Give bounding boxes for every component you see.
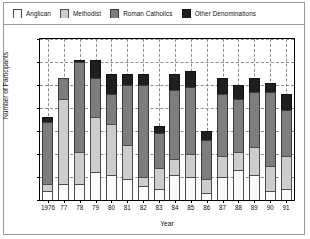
x-tick-label: 91 (283, 204, 290, 211)
bar-segment-anglican (106, 175, 117, 200)
bar-segment-methodist (90, 117, 101, 172)
y-tick-mark (37, 62, 40, 63)
x-tick-mark (111, 200, 112, 203)
y-tick-mark (37, 154, 40, 155)
bar-1976[interactable] (42, 117, 53, 200)
x-tick-mark (127, 200, 128, 203)
bar-84[interactable] (169, 74, 180, 200)
x-tick-mark (270, 200, 271, 203)
bar-83[interactable] (154, 126, 165, 200)
bar-segment-methodist (154, 168, 165, 189)
legend-item-label: Methodist (73, 10, 101, 17)
bar-segment-anglican (169, 175, 180, 200)
bar-82[interactable] (138, 74, 149, 200)
bar-segment-roman-catholics (122, 85, 133, 145)
bar-segment-anglican (138, 186, 149, 200)
bar-segment-roman-catholics (42, 122, 53, 184)
legend-swatch-icon (13, 9, 22, 18)
y-tick-mark (37, 200, 40, 201)
bar-90[interactable] (265, 83, 276, 200)
x-tick-label: 77 (60, 204, 67, 211)
bar-segment-methodist (233, 152, 244, 170)
bar-segment-other-denominations (90, 60, 101, 78)
x-tick-label: 87 (219, 204, 226, 211)
bar-segment-other-denominations (249, 78, 260, 92)
bar-segment-roman-catholics (58, 78, 69, 99)
legend-item-roman-catholics[interactable]: Roman Catholics (110, 9, 172, 18)
legend-item-label: Roman Catholics (123, 10, 172, 17)
legend-item-label: Anglican (26, 10, 51, 17)
legend-item-other-denominations[interactable]: Other Denominations (182, 9, 256, 18)
bar-segment-anglican (233, 170, 244, 200)
bar-segment-roman-catholics (154, 133, 165, 168)
bar-segment-roman-catholics (201, 140, 212, 179)
bar-segment-methodist (185, 154, 196, 177)
bar-segment-methodist (58, 99, 69, 184)
bar-segment-anglican (154, 189, 165, 201)
bar-86[interactable] (201, 131, 212, 200)
bar-segment-methodist (201, 179, 212, 193)
bar-88[interactable] (233, 85, 244, 200)
x-tick-label: 89 (251, 204, 258, 211)
x-tick-label: 84 (171, 204, 178, 211)
bar-segment-methodist (42, 184, 53, 191)
legend-item-methodist[interactable]: Methodist (60, 9, 101, 18)
bar-segment-methodist (217, 156, 228, 177)
bar-segment-methodist (281, 156, 292, 188)
bar-segment-anglican (265, 191, 276, 200)
x-tick-mark (96, 200, 97, 203)
bar-91[interactable] (281, 94, 292, 200)
bar-78[interactable] (74, 60, 85, 200)
bar-segment-other-denominations (201, 131, 212, 140)
chart-legend: AnglicanMethodistRoman CatholicsOther De… (4, 3, 304, 25)
bar-segment-methodist (106, 124, 117, 175)
bar-79[interactable] (90, 60, 101, 200)
bar-segment-other-denominations (217, 78, 228, 94)
bar-segment-anglican (217, 177, 228, 200)
bar-81[interactable] (122, 74, 133, 200)
bar-segment-other-denominations (233, 85, 244, 99)
bar-segment-anglican (90, 172, 101, 200)
legend-swatch-icon (182, 9, 191, 18)
x-tick-mark (207, 200, 208, 203)
x-tick-mark (238, 200, 239, 203)
bar-85[interactable] (185, 71, 196, 200)
x-tick-label: 80 (108, 204, 115, 211)
bar-80[interactable] (106, 74, 117, 200)
x-tick-label: 1976 (41, 204, 55, 211)
bar-segment-anglican (122, 179, 133, 200)
bar-87[interactable] (217, 78, 228, 200)
x-tick-mark (286, 200, 287, 203)
bar-77[interactable] (58, 78, 69, 200)
bar-segment-anglican (201, 193, 212, 200)
gridline-horizontal (40, 39, 294, 40)
y-tick-mark (37, 85, 40, 86)
x-tick-mark (223, 200, 224, 203)
x-tick-label: 85 (187, 204, 194, 211)
legend-swatch-icon (110, 9, 119, 18)
x-tick-mark (48, 200, 49, 203)
bar-segment-roman-catholics (217, 94, 228, 156)
bar-segment-methodist (265, 166, 276, 191)
y-tick-mark (37, 131, 40, 132)
legend-item-label: Other Denominations (195, 10, 256, 17)
bar-segment-other-denominations (138, 74, 149, 86)
bar-segment-other-denominations (185, 71, 196, 87)
bar-segment-roman-catholics (74, 62, 85, 152)
bar-segment-methodist (74, 152, 85, 184)
x-tick-label: 79 (92, 204, 99, 211)
legend-item-anglican[interactable]: Anglican (13, 9, 51, 18)
x-tick-label: 86 (203, 204, 210, 211)
y-tick-mark (37, 177, 40, 178)
x-tick-label: 83 (156, 204, 163, 211)
x-tick-mark (191, 200, 192, 203)
legend-swatch-icon (60, 9, 69, 18)
bar-segment-methodist (169, 159, 180, 175)
bar-segment-anglican (249, 175, 260, 200)
bar-segment-other-denominations (122, 74, 133, 86)
x-tick-label: 88 (235, 204, 242, 211)
y-tick-mark (37, 39, 40, 40)
bar-89[interactable] (249, 78, 260, 200)
bar-segment-methodist (122, 145, 133, 180)
bar-segment-anglican (74, 184, 85, 200)
